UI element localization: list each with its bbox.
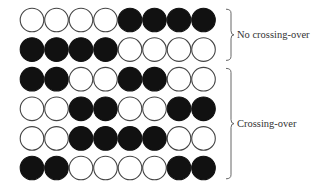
filled-circle: [20, 156, 44, 180]
filled-circle: [69, 127, 93, 151]
label-crossing-over: Crossing-over: [237, 118, 297, 129]
circle-grid: [20, 8, 215, 180]
filled-circle: [45, 67, 69, 91]
filled-circle: [192, 156, 216, 180]
filled-circle: [20, 38, 44, 62]
empty-circle: [20, 127, 44, 151]
empty-circle: [143, 38, 167, 62]
empty-circle: [192, 38, 216, 62]
filled-circle: [143, 127, 167, 151]
brace-crossing-over: [226, 68, 234, 178]
empty-circle: [118, 156, 142, 180]
filled-circle: [192, 8, 216, 32]
filled-circle: [20, 67, 44, 91]
empty-circle: [45, 97, 69, 121]
group-braces: No crossing-over Crossing-over: [226, 9, 310, 179]
empty-circle: [69, 8, 93, 32]
filled-circle: [94, 127, 118, 151]
filled-circle: [45, 38, 69, 62]
filled-circle: [143, 67, 167, 91]
filled-circle: [143, 8, 167, 32]
crossing-over-diagram: No crossing-over Crossing-over: [0, 0, 319, 195]
filled-circle: [167, 156, 191, 180]
empty-circle: [143, 97, 167, 121]
filled-circle: [94, 38, 118, 62]
empty-circle: [118, 97, 142, 121]
filled-circle: [45, 156, 69, 180]
filled-circle: [167, 97, 191, 121]
filled-circle: [167, 8, 191, 32]
empty-circle: [20, 8, 44, 32]
empty-circle: [192, 127, 216, 151]
empty-circle: [167, 67, 191, 91]
filled-circle: [192, 97, 216, 121]
empty-circle: [118, 38, 142, 62]
empty-circle: [167, 38, 191, 62]
filled-circle: [69, 97, 93, 121]
empty-circle: [94, 156, 118, 180]
empty-circle: [45, 127, 69, 151]
empty-circle: [167, 127, 191, 151]
empty-circle: [143, 156, 167, 180]
label-no-crossing-over: No crossing-over: [237, 29, 310, 40]
empty-circle: [192, 67, 216, 91]
filled-circle: [118, 67, 142, 91]
empty-circle: [94, 67, 118, 91]
empty-circle: [69, 156, 93, 180]
filled-circle: [69, 38, 93, 62]
filled-circle: [118, 127, 142, 151]
empty-circle: [69, 67, 93, 91]
empty-circle: [20, 97, 44, 121]
filled-circle: [94, 97, 118, 121]
brace-no-crossing-over: [226, 9, 234, 60]
empty-circle: [94, 8, 118, 32]
filled-circle: [118, 8, 142, 32]
empty-circle: [45, 8, 69, 32]
